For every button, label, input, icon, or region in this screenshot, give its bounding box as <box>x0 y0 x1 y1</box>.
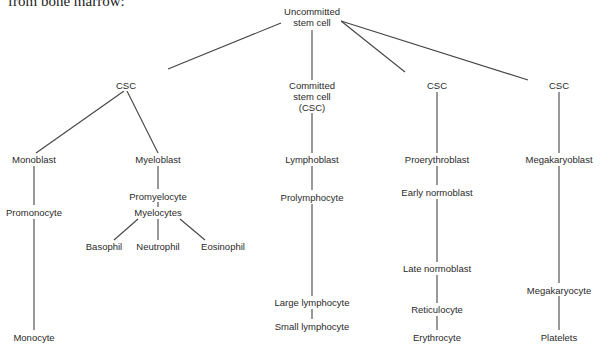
node-uncommitted-stem-cell: Uncommitted stem cell <box>283 6 341 28</box>
node-myeloblast: Myeloblast <box>134 154 181 165</box>
node-promyelocyte: Promyelocyte <box>128 191 188 202</box>
node-monoblast: Monoblast <box>11 154 57 165</box>
node-platelets: Platelets <box>540 332 578 343</box>
node-neutrophil: Neutrophil <box>135 241 180 252</box>
node-basophil: Basophil <box>85 241 123 252</box>
node-late-normoblast: Late normoblast <box>402 263 472 274</box>
node-eosinophil: Eosinophil <box>200 241 246 252</box>
node-label: Uncommitted stem cell <box>284 6 340 28</box>
node-monocyte: Monocyte <box>12 332 55 343</box>
node-erythrocyte: Erythrocyte <box>412 332 462 343</box>
node-csc-mid: CSC <box>426 80 448 91</box>
node-promonocyte: Promonocyte <box>5 207 63 218</box>
node-committed-stem-cell: Committed stem cell (CSC) <box>288 80 336 113</box>
node-proerythroblast: Proerythroblast <box>404 154 470 165</box>
node-large-lymphocyte: Large lymphocyte <box>274 297 351 308</box>
node-label: Committed stem cell (CSC) <box>289 80 335 113</box>
node-early-normoblast: Early normoblast <box>400 187 473 198</box>
hematopoiesis-diagram: from bone marrow: Uncommi <box>0 0 605 350</box>
node-megakaryocyte: Megakaryocyte <box>526 285 592 296</box>
node-csc-left: CSC <box>115 80 137 91</box>
node-csc-right: CSC <box>548 80 570 91</box>
node-megakaryoblast: Megakaryoblast <box>524 154 593 165</box>
node-prolymphocyte: Prolymphocyte <box>280 192 345 203</box>
node-small-lymphocyte: Small lymphocyte <box>274 321 350 332</box>
node-lymphoblast: Lymphoblast <box>284 154 340 165</box>
node-reticulocyte: Reticulocyte <box>410 304 464 315</box>
node-myelocytes: Myelocytes <box>133 207 183 218</box>
